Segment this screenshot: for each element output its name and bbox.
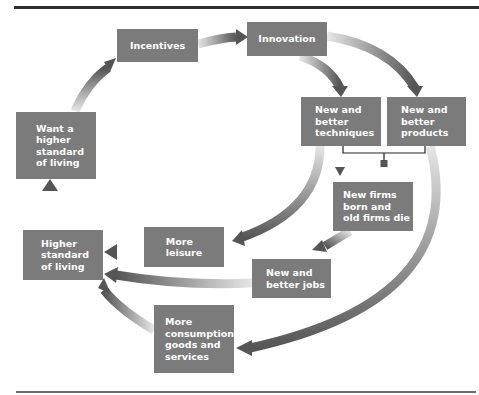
node-want-higher: Want a higher standard of living — [16, 112, 96, 179]
arrow-techniques-leisure — [240, 146, 320, 238]
node-higher-standard: Higher standard of living — [23, 230, 103, 280]
bracket-connector — [343, 146, 425, 160]
node-firms: New firms born and old firms die — [333, 182, 413, 231]
node-consumption: More consumption goods and services — [154, 305, 234, 373]
arrow-consumption-higher — [104, 290, 154, 330]
arrow-incentives-innovation — [198, 37, 236, 44]
arrow-innovation-techniques — [300, 56, 340, 88]
arrow-products-consumption — [250, 146, 436, 348]
node-products: New and better products — [387, 97, 466, 146]
node-innovation: Innovation — [247, 22, 327, 56]
node-techniques: New and better techniques — [301, 97, 381, 146]
node-jobs: New and better jobs — [252, 259, 331, 298]
arrow-firms-jobs — [325, 231, 350, 246]
arrow-jobs-higher — [116, 275, 252, 284]
arrow-want-incentives — [75, 68, 108, 111]
node-leisure: More leisure — [144, 227, 224, 267]
node-incentives: Incentives — [117, 29, 198, 62]
